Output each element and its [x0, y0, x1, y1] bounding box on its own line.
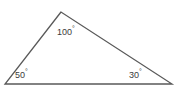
triangle-shape: [0, 0, 177, 95]
angle-label-apex: 100°: [57, 27, 75, 37]
angle-value-bottom-right: 30: [129, 70, 139, 80]
angle-label-bottom-left: 50°: [15, 70, 28, 80]
angle-value-apex: 100: [57, 27, 72, 37]
angle-value-bottom-left: 50: [15, 70, 25, 80]
angle-label-bottom-right: 30°: [129, 70, 142, 80]
triangle-figure: 100° 50° 30°: [0, 0, 177, 95]
degree-symbol-bottom-right: °: [139, 68, 142, 75]
degree-symbol-apex: °: [72, 25, 75, 32]
triangle-outline: [5, 12, 172, 84]
degree-symbol-bottom-left: °: [25, 68, 28, 75]
